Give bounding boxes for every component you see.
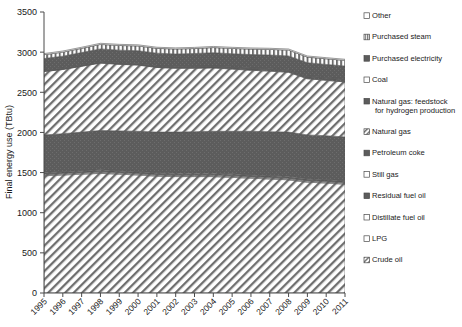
legend-swatch [364, 98, 370, 104]
legend-swatch [364, 56, 370, 62]
legend-swatch [364, 34, 370, 40]
legend-item-still-gas[interactable]: Still gas [364, 170, 399, 179]
legend-swatch [364, 129, 370, 135]
legend-label: Purchased steam [372, 32, 431, 41]
stacked-area-chart: 0500100015002000250030003500 19951996199… [0, 0, 462, 327]
legend-label-cont: for hydrogen production [375, 106, 455, 115]
chart-legend: OtherPurchased steamPurchased electricit… [364, 11, 455, 264]
legend-label: Natural gas [372, 127, 411, 136]
area-band-crude-oil [44, 173, 345, 293]
y-axis: 0500100015002000250030003500 [17, 7, 44, 298]
x-tick-label: 2000 [123, 296, 144, 317]
y-tick-label: 1000 [17, 208, 37, 218]
legend-label: Purchased electricity [372, 54, 442, 63]
y-tick-label: 2500 [17, 88, 37, 98]
legend-label: Natural gas: feedstock [372, 97, 448, 106]
legend-label: Residual fuel oil [372, 191, 426, 200]
legend-swatch [364, 236, 370, 242]
x-tick-label: 2002 [160, 296, 181, 317]
x-tick-label: 2010 [311, 296, 332, 317]
y-tick-label: 2000 [17, 128, 37, 138]
legend-item-purchased-steam[interactable]: Purchased steam [364, 32, 431, 41]
y-tick-label: 0 [32, 288, 37, 298]
legend-swatch [364, 77, 370, 83]
y-tick-label: 3500 [17, 7, 37, 17]
y-tick-label: 1500 [17, 168, 37, 178]
legend-label: Petroleum coke [372, 148, 425, 157]
x-tick-label: 2005 [217, 296, 238, 317]
x-tick-label: 1999 [104, 296, 125, 317]
y-axis-label: Final energy use (TBtu) [4, 105, 14, 199]
x-tick-label: 2011 [330, 296, 350, 316]
legend-label: Distillate fuel oil [372, 213, 425, 222]
legend-item-crude-oil[interactable]: Crude oil [364, 255, 403, 264]
legend-swatch [364, 172, 370, 178]
legend-item-coal[interactable]: Coal [364, 75, 388, 84]
x-tick-label: 2003 [179, 296, 200, 317]
x-tick-label: 2009 [292, 296, 313, 317]
legend-swatch [364, 193, 370, 199]
x-tick-label: 1997 [66, 296, 87, 317]
legend-label: Still gas [372, 170, 399, 179]
legend-label: Coal [372, 75, 388, 84]
legend-item-lpg[interactable]: LPG [364, 234, 387, 243]
x-tick-label: 1995 [28, 296, 49, 317]
legend-label: Crude oil [372, 255, 403, 264]
y-tick-label: 3000 [17, 48, 37, 58]
legend-item-petroleum-coke[interactable]: Petroleum coke [364, 148, 425, 157]
legend-swatch [364, 214, 370, 220]
x-tick-label: 2008 [273, 296, 294, 317]
x-tick-label: 1996 [47, 296, 68, 317]
legend-item-natural-gas-feedstock[interactable]: Natural gas: feedstockfor hydrogen produ… [364, 97, 455, 115]
legend-swatch [364, 257, 370, 263]
x-tick-label: 2001 [141, 296, 162, 317]
legend-label: Other [372, 11, 391, 20]
x-tick-label: 2007 [254, 296, 275, 317]
legend-item-residual-fuel-oil[interactable]: Residual fuel oil [364, 191, 426, 200]
x-tick-label: 2006 [235, 296, 256, 317]
legend-item-other[interactable]: Other [364, 11, 391, 20]
y-tick-label: 500 [22, 248, 37, 258]
legend-swatch [364, 150, 370, 156]
legend-item-purchased-electricity[interactable]: Purchased electricity [364, 54, 442, 63]
x-axis: 1995199619971998199920002001200220032004… [28, 293, 350, 317]
legend-item-distillate-fuel-oil[interactable]: Distillate fuel oil [364, 213, 425, 222]
legend-item-natural-gas[interactable]: Natural gas [364, 127, 411, 136]
chart-svg: 0500100015002000250030003500 19951996199… [0, 0, 462, 327]
x-tick-label: 1998 [85, 296, 106, 317]
x-tick-label: 2004 [198, 296, 219, 317]
legend-label: LPG [372, 234, 387, 243]
plot-area [44, 43, 345, 293]
legend-swatch [364, 13, 370, 19]
